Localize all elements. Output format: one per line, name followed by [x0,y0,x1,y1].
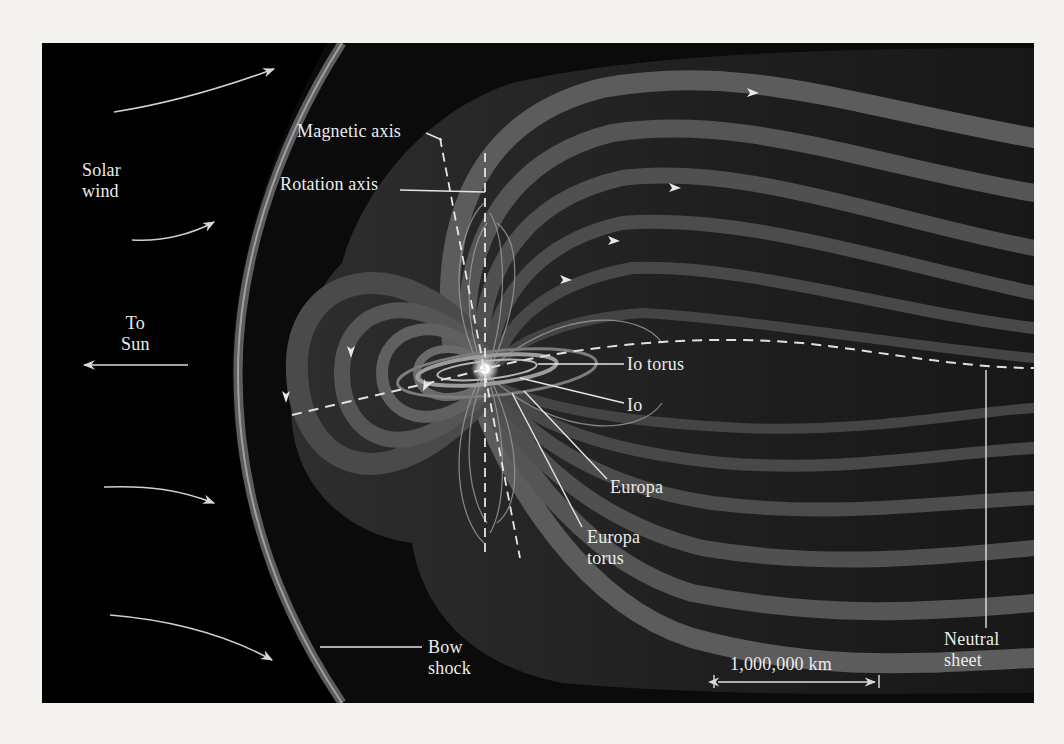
to-sun-label: To Sun [121,313,150,355]
io-torus-label: Io torus [627,354,684,375]
rotation-axis-label: Rotation axis [280,174,378,195]
diagram-artwork [42,43,1034,703]
magnetosphere-diagram: Solar wind To Sun Magnetic axis Rotation… [42,43,1034,703]
io-label: Io [627,395,642,416]
bow-shock-label: Bow shock [428,637,471,679]
scale-bar-label: 1,000,000 km [730,654,832,675]
neutral-sheet-label: Neutral sheet [944,629,999,671]
europa-torus-label: Europa torus [587,527,640,569]
solar-wind-label: Solar wind [82,160,121,202]
europa-label: Europa [610,477,663,498]
magnetic-axis-label: Magnetic axis [297,121,401,142]
